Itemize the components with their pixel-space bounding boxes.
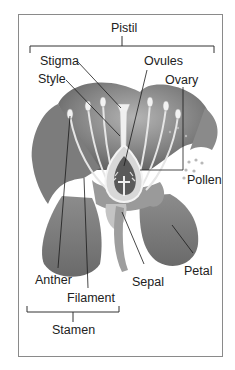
label-style: Style	[38, 72, 66, 86]
stamen-bracket	[27, 306, 119, 322]
label-stigma: Stigma	[40, 54, 79, 68]
label-ovary: Ovary	[165, 73, 198, 87]
pistil-bracket	[30, 36, 214, 53]
label-pollen: Pollen	[187, 173, 222, 187]
label-sepal: Sepal	[132, 275, 164, 289]
sepal	[105, 204, 128, 272]
label-anther: Anther	[35, 273, 72, 287]
label-stamen: Stamen	[52, 323, 95, 337]
label-filament: Filament	[67, 291, 115, 305]
label-petal: Petal	[184, 264, 213, 278]
label-pistil: Pistil	[111, 21, 137, 35]
label-ovules: Ovules	[144, 54, 183, 68]
